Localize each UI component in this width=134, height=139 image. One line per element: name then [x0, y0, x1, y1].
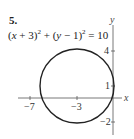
- y-tick-label-4: 4: [104, 45, 109, 56]
- x-tick-label--3: −3: [71, 101, 82, 112]
- y-tick-label--2: −2: [100, 116, 111, 127]
- x-axis-label: x: [123, 92, 129, 103]
- y-tick-label-1: 1: [105, 80, 110, 91]
- circle-plot: x y −7 −3 4 1 −2: [0, 0, 134, 139]
- x-tick-label--7: −7: [24, 101, 35, 112]
- y-axis-label: y: [109, 14, 115, 25]
